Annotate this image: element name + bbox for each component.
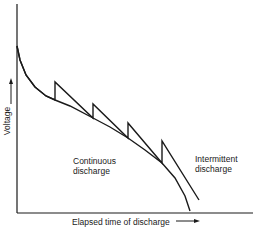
continuous-label-line1: Continuous bbox=[73, 156, 116, 166]
x-axis-label: Elapsed time of discharge bbox=[72, 217, 170, 227]
y-axis-arrow-head-icon bbox=[9, 78, 13, 84]
y-axis-label: Voltage bbox=[2, 91, 12, 151]
continuous-discharge-label: Continuous discharge bbox=[73, 156, 116, 176]
continuous-label-line2: discharge bbox=[73, 166, 116, 176]
x-axis-arrow-head-icon bbox=[194, 219, 200, 223]
intermittent-discharge-label: Intermittent discharge bbox=[195, 154, 238, 174]
continuous-discharge-curve bbox=[17, 46, 190, 211]
intermittent-label-line2: discharge bbox=[195, 164, 238, 174]
intermittent-label-line1: Intermittent bbox=[195, 154, 238, 164]
discharge-chart bbox=[0, 0, 266, 233]
intermittent-discharge-curve bbox=[17, 46, 199, 200]
